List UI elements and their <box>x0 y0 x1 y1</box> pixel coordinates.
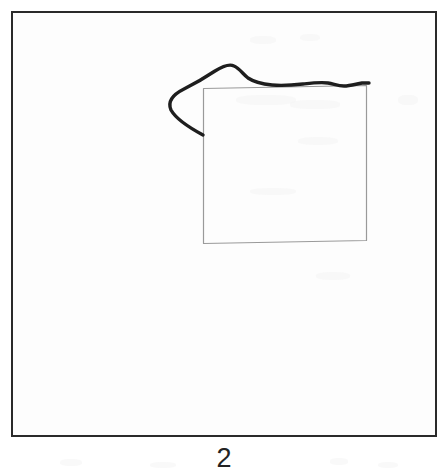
figure-panel-frame <box>11 11 437 437</box>
figure-container: 2 <box>0 0 448 472</box>
figure-number-caption: 2 <box>0 444 448 472</box>
